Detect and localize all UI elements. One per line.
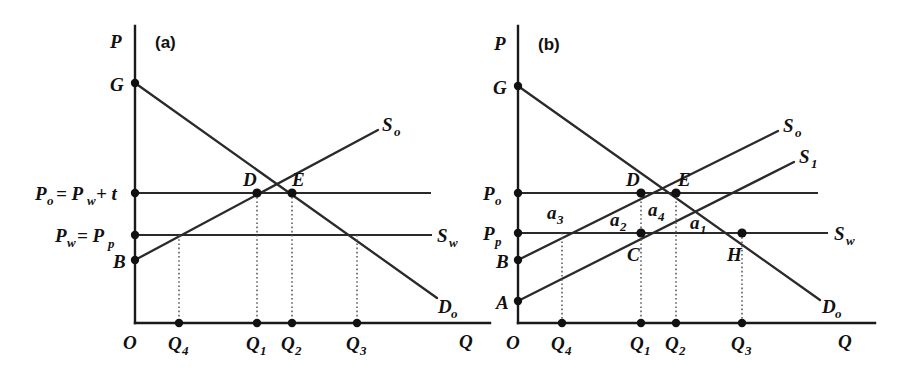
panel-a-Q1-sub: 1: [260, 343, 267, 358]
panel-b-x-axis-label: Q: [838, 331, 852, 352]
panel-b-point-C-dot: [636, 228, 645, 237]
panel-b-a2-letter: a: [610, 209, 620, 230]
panel-b-Q3-letter: Q: [731, 333, 745, 354]
panel-b-tick-label-Q1: Q 1: [630, 333, 651, 358]
panel-b-So-letter: S: [783, 115, 794, 136]
panel-b-Po-letter: P: [482, 183, 495, 204]
panel-b-label-B: B: [495, 251, 509, 272]
panel-b-point-Po-dot: [514, 189, 522, 197]
panel-b-label-Pp: P p: [482, 223, 502, 249]
panel-a-Q3-sub: 3: [359, 343, 367, 358]
panel-b-Po-sub: o: [495, 193, 502, 208]
panel-a-Q2-sub: 2: [294, 343, 302, 358]
panel-a-label-Pw-equation: P w = P p: [54, 225, 115, 251]
panel-b-Q1-sub: 1: [644, 343, 651, 358]
panel-b-area-label-a2: a 2: [610, 209, 627, 234]
panel-a-tag: (a): [155, 33, 176, 52]
panel-b-point-G-dot: [514, 82, 522, 90]
panel-b-area-label-a4: a 4: [648, 199, 665, 224]
panel-a-point-Pw-dot: [131, 231, 139, 239]
panel-b-Pp-sub: p: [494, 234, 502, 249]
panel-b-label-D: D: [625, 169, 640, 190]
panel-b-Do-sub: o: [835, 306, 842, 321]
panel-a-label-E: E: [291, 169, 305, 190]
panel-b-tick-Q3-dot: [738, 319, 746, 327]
panel-b-Q2-letter: Q: [665, 333, 679, 354]
panel-b-a1-sub: 1: [700, 222, 707, 237]
panel-b-Q4-letter: Q: [551, 333, 565, 354]
panel-a-Pw-sub: w: [67, 235, 76, 250]
panel-a-Do-sub: o: [451, 306, 458, 321]
panel-b-curve-label-Do: D o: [821, 296, 842, 321]
panel-b-Q4-sub: 4: [564, 343, 572, 358]
panel-a-point-B-dot: [131, 256, 139, 264]
panel-b-S1-letter: S: [799, 146, 810, 167]
panel-b-tick-label-Q4: Q 4: [551, 333, 572, 358]
panel-a-Q4-sub: 4: [181, 343, 189, 358]
panel-b-a3-sub: 3: [556, 212, 564, 227]
panel-b-tick-Q4-dot: [558, 319, 566, 327]
panel-a-curve-label-Sw: S w: [437, 225, 458, 250]
panel-b-tick-label-Q3: Q 3: [731, 333, 752, 358]
panel-b-tick-label-Q2: Q 2: [665, 333, 686, 358]
panel-a-label-Po-equation: P o = P w + t: [34, 183, 118, 208]
panel-a-curve-label-So: S o: [382, 114, 401, 139]
panel-a-x-axis-label: Q: [459, 331, 473, 352]
panel-b-label-A: A: [495, 292, 509, 313]
panel-b-point-Pp-dot: [514, 229, 522, 237]
panel-b-Q2-sub: 2: [678, 343, 686, 358]
panel-b-label-G: G: [493, 77, 507, 98]
panel-a-Pw-P: P: [54, 225, 67, 246]
panel-b-Pp-letter: P: [482, 223, 495, 244]
panel-a-Pw-sub2: p: [107, 236, 115, 251]
panel-a-Do-letter: D: [437, 296, 452, 317]
panel-a-Sw-sub: w: [449, 235, 458, 250]
panel-b: (b) P Q O G B A P o P p S o S: [482, 26, 875, 358]
panel-b-origin-label: O: [506, 332, 520, 353]
panel-b-So-sub: o: [795, 125, 802, 140]
economics-diagram-figure: (a) P Q O G B P o = P w + t P w = P p: [0, 0, 897, 377]
panel-a: (a) P Q O G B P o = P w + t P w = P p: [34, 26, 490, 358]
panel-b-supply-curve-So: [518, 131, 778, 260]
panel-b-a4-letter: a: [648, 199, 658, 220]
panel-a-Pw-eq: = P: [77, 225, 105, 246]
panel-a-tick-Q4-dot: [175, 319, 183, 327]
panel-b-curve-label-So: S o: [783, 115, 802, 140]
panel-a-Po-P: P: [34, 183, 47, 204]
panel-a-point-G-dot: [131, 79, 139, 87]
panel-a-tick-Q2-dot: [288, 319, 296, 327]
panel-a-Q2-letter: Q: [281, 333, 295, 354]
panel-a-Q1-letter: Q: [246, 333, 260, 354]
panel-b-area-label-a3: a 3: [547, 202, 564, 227]
panel-a-tick-label-Q3: Q 3: [346, 333, 367, 358]
panel-a-So-letter: S: [382, 114, 393, 135]
panel-b-tag: (b): [538, 35, 560, 54]
panel-b-a4-sub: 4: [657, 209, 665, 224]
panel-a-tick-Q1-dot: [253, 319, 261, 327]
panel-a-label-B: B: [112, 251, 126, 272]
panel-b-Sw-letter: S: [834, 223, 845, 244]
panel-b-point-B-dot: [514, 256, 522, 264]
panel-a-Po-tail: + t: [96, 183, 118, 204]
panel-b-tick-Q2-dot: [672, 319, 680, 327]
panel-b-a3-letter: a: [547, 202, 557, 223]
panel-a-tick-label-Q1: Q 1: [246, 333, 267, 358]
panel-b-Do-letter: D: [821, 296, 836, 317]
panel-a-Q3-letter: Q: [346, 333, 360, 354]
panel-a-Po-sub2: w: [87, 193, 96, 208]
panel-b-point-H-dot: [737, 228, 746, 237]
panel-a-tick-label-Q2: Q 2: [281, 333, 302, 358]
panel-a-Q4-letter: Q: [168, 333, 182, 354]
panel-b-label-E: E: [677, 169, 691, 190]
panel-a-tick-Q3-dot: [353, 319, 361, 327]
panel-a-point-Po-dot: [131, 189, 139, 197]
panel-a-label-G: G: [110, 74, 124, 95]
panel-a-tick-label-Q4: Q 4: [168, 333, 189, 358]
panel-b-a2-sub: 2: [619, 219, 627, 234]
panel-a-origin-label: O: [123, 332, 137, 353]
panel-a-label-D: D: [242, 169, 257, 190]
panel-a-Sw-letter: S: [437, 225, 448, 246]
panel-b-Q1-letter: Q: [630, 333, 644, 354]
panel-b-tick-Q1-dot: [637, 319, 645, 327]
panel-b-a1-letter: a: [690, 212, 700, 233]
